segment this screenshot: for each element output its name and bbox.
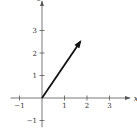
y-tick-label: −1 xyxy=(27,117,37,125)
y-axis-label: y xyxy=(37,0,43,1)
y-tick-label: 2 xyxy=(33,50,37,58)
x-tick-label: 2 xyxy=(85,102,89,110)
x-tick-label: 3 xyxy=(107,102,111,110)
y-tick-label: 1 xyxy=(33,72,37,80)
x-tick-label: 1 xyxy=(62,102,66,110)
vector-diagram: −1123−1123 x y xyxy=(0,0,137,136)
ticks: −1123−1123 xyxy=(14,27,111,125)
vectors xyxy=(42,42,80,98)
axes xyxy=(11,1,130,127)
x-tick-label: −1 xyxy=(14,102,24,110)
vector-arrow xyxy=(42,42,80,98)
y-tick-label: 3 xyxy=(33,27,37,35)
x-axis-label: x xyxy=(134,94,137,103)
